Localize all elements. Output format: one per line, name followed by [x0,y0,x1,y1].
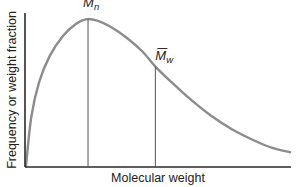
mw-label: M [155,48,166,63]
y-axis-label: Frequency or weight fraction [5,11,19,169]
distribution-curve [26,19,290,166]
x-axis-label: Molecular weight [111,171,205,185]
mn-label: M [83,0,94,10]
mw-subscript: w [166,54,174,65]
mw-distribution-chart: Molecular weight Frequency or weight fra… [0,0,296,187]
mn-subscript: n [94,1,99,12]
